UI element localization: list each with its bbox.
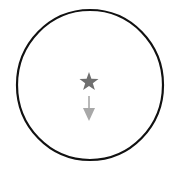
diagram-canvas [0, 0, 180, 172]
